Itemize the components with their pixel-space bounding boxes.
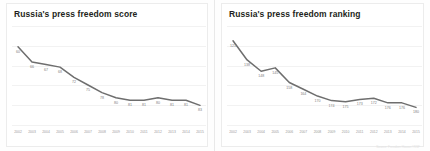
x-axis-tick-label: 2010 <box>342 131 350 134</box>
x-axis-tick-label: 2011 <box>356 131 363 134</box>
page-title: Russia's press freedom score <box>14 9 137 19</box>
data-point-label: 176 <box>399 107 405 111</box>
x-axis-tick-label: 2007 <box>300 131 308 134</box>
data-point-label: 67 <box>44 69 48 73</box>
page-title-ranking: Russia's press freedom ranking <box>229 9 361 19</box>
data-point-label: 75 <box>86 89 90 93</box>
data-point-label: 176 <box>385 107 391 111</box>
data-point-label: 145 <box>272 72 278 76</box>
plot-area-ranking: 1211381481451581641701741751731721761761… <box>227 26 422 125</box>
data-point-label: 66 <box>30 66 34 70</box>
x-axis-tick-label: 2002 <box>14 131 22 134</box>
x-axis-tick-label: 2015 <box>409 131 423 134</box>
x-axis-labels-score: 2002200320042005200620072008200920102011… <box>12 131 206 141</box>
x-axis-tick-label: 2015 <box>193 131 207 134</box>
x-axis-tick-label: 2006 <box>286 131 294 134</box>
chart-panel-score: Russia's press freedom score 60666768727… <box>0 0 215 151</box>
data-point-label: 180 <box>413 112 419 116</box>
data-point-label: 158 <box>286 87 292 91</box>
x-axis-tick-label: 2008 <box>98 131 106 134</box>
data-point-label: 78 <box>100 97 104 101</box>
x-axis-tick-label: 2002 <box>229 131 237 134</box>
data-point-label: 72 <box>72 82 76 86</box>
data-point-label: 81 <box>128 105 132 109</box>
x-axis-tick-label: 2003 <box>28 131 36 134</box>
x-axis-tick-label: 2004 <box>42 131 50 134</box>
data-point-label: 81 <box>142 105 146 109</box>
data-point-label: 81 <box>170 105 174 109</box>
data-point-label: 148 <box>258 76 264 80</box>
x-axis-tick-label: 2005 <box>271 131 279 134</box>
data-point-label: 173 <box>357 104 363 108</box>
data-point-label: 172 <box>371 103 377 107</box>
x-axis-tick-label: 2014 <box>398 131 406 134</box>
x-axis-tick-label: 2009 <box>112 131 120 134</box>
score-line-series <box>12 26 206 125</box>
data-point-label: 170 <box>314 100 320 104</box>
data-point-label: 174 <box>329 105 335 109</box>
x-axis-tick-label: 2009 <box>328 131 336 134</box>
data-point-label: 60 <box>16 51 20 55</box>
x-axis-tick-label: 2006 <box>70 131 78 134</box>
data-point-label: 81 <box>184 105 188 109</box>
data-point-label: 121 <box>230 45 236 49</box>
x-axis-tick-label: 2003 <box>243 131 251 134</box>
data-point-label: 83 <box>198 110 202 114</box>
data-point-label: 175 <box>343 106 349 110</box>
dual-chart-figure: Russia's press freedom score 60666768727… <box>0 0 430 151</box>
x-axis-tick-label: 2012 <box>154 131 162 134</box>
data-point-label: 138 <box>244 64 250 68</box>
x-axis-tick-label: 2013 <box>168 131 176 134</box>
data-point-label: 164 <box>300 94 306 98</box>
x-axis-tick-label: 2014 <box>182 131 190 134</box>
source-note: Source: Freedom House / RSF <box>376 145 420 149</box>
x-axis-tick-label: 2013 <box>384 131 392 134</box>
x-axis-tick-label: 2012 <box>370 131 378 134</box>
x-axis-tick-label: 2004 <box>257 131 265 134</box>
data-point-label: 80 <box>114 102 118 106</box>
x-axis-tick-label: 2007 <box>84 131 92 134</box>
plot-area-score: 6066676872757880818180818183 <box>12 26 206 125</box>
x-axis-tick-label: 2010 <box>126 131 134 134</box>
chart-panel-ranking: Russia's press freedom ranking 121138148… <box>215 0 430 151</box>
x-axis-tick-label: 2011 <box>140 131 147 134</box>
x-axis-tick-label: 2005 <box>56 131 64 134</box>
data-point-label: 80 <box>156 102 160 106</box>
ranking-line-series <box>227 26 422 125</box>
x-axis-tick-label: 2008 <box>314 131 322 134</box>
x-axis-labels-ranking: 2002200320042005200620072008200920102011… <box>227 131 422 141</box>
data-point-label: 68 <box>58 72 62 76</box>
